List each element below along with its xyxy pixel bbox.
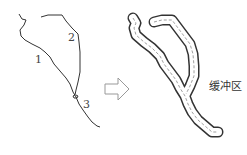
- line-2: [41, 15, 80, 95]
- buffer-zone-label: 缓冲区: [209, 77, 242, 93]
- buffer-zone: [133, 18, 218, 132]
- label-line-1: 1: [35, 54, 42, 65]
- hollow-right-arrow-icon: [105, 78, 129, 100]
- label-line-3: 3: [83, 99, 90, 110]
- label-line-2: 2: [68, 32, 75, 43]
